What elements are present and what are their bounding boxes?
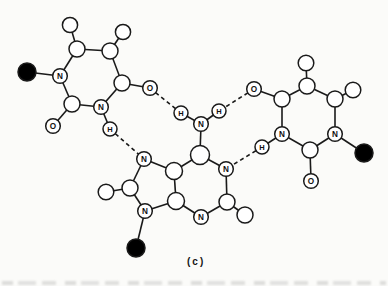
atom-label: H (216, 107, 221, 116)
oxygen-atom: O (143, 81, 158, 96)
nitrogen-atom: N (137, 152, 152, 167)
nitrogen-atom: N (219, 162, 234, 177)
carbon-atom (115, 24, 130, 39)
sugar-attachment-atom (18, 63, 36, 81)
atom-label: N (198, 120, 204, 129)
nitrogen-atom: N (194, 210, 209, 225)
sugar-attachment-atom (127, 239, 145, 257)
carbon-atom (302, 142, 318, 158)
nitrogen-atom: N (138, 204, 153, 219)
carbon-atom (345, 82, 361, 98)
cropped-caption-text (2, 281, 386, 285)
atom-label: N (198, 213, 204, 222)
carbon-atom (98, 184, 114, 200)
oxygen-atom: O (304, 174, 319, 189)
nitrogen-atom: N (275, 127, 290, 142)
hydrogen-atom: H (212, 104, 226, 118)
nitrogen-atom: N (328, 127, 343, 142)
sugar-attachment-atom (355, 144, 373, 162)
atom-label: H (178, 109, 183, 118)
carbon-atom (168, 193, 185, 210)
nitrogen-atom: N (94, 100, 109, 115)
atom-label: O (50, 122, 57, 131)
hydrogen-atom: H (174, 106, 188, 120)
atom-label: N (142, 207, 148, 216)
carbon-atom (219, 194, 235, 210)
carbon-atom (102, 43, 118, 59)
nitrogen-atom: N (194, 117, 209, 132)
atom-label: N (223, 165, 229, 174)
carbon-atom (274, 91, 290, 107)
carbon-atom (327, 91, 343, 107)
carbon-atom (298, 55, 314, 71)
atom-label: H (259, 143, 264, 152)
carbon-atom (237, 207, 253, 223)
molecule-diagram: NONHOONONHNNNNNHH (0, 0, 388, 286)
atom-label: N (57, 72, 63, 81)
carbon-atom (166, 163, 183, 180)
atom-label: O (147, 84, 154, 93)
atom-label: O (308, 177, 315, 186)
oxygen-atom: O (46, 119, 61, 134)
hydrogen-atom: H (255, 140, 269, 154)
atom-label: O (251, 85, 258, 94)
figure: NONHOONONHNNNNNHH (c) (0, 0, 388, 286)
atom-label: N (332, 130, 338, 139)
nitrogen-atom: N (53, 69, 68, 84)
atom-label: N (98, 103, 104, 112)
oxygen-atom: O (247, 82, 262, 97)
carbon-atom (299, 78, 315, 94)
carbon-atom (114, 75, 130, 91)
carbon-atom (62, 17, 77, 32)
atom-label: N (141, 155, 147, 164)
carbon-atom (64, 96, 80, 112)
carbon-atom (191, 146, 210, 165)
atom-label: N (279, 130, 285, 139)
subfigure-label: (c) (187, 256, 205, 267)
carbon-atom (122, 180, 138, 196)
atom-label: H (107, 125, 112, 134)
carbon-atom (69, 41, 85, 57)
hydrogen-atom: H (103, 122, 117, 136)
